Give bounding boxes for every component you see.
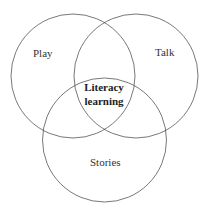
label-center-line1: Literacy xyxy=(84,81,124,93)
circle-play xyxy=(11,14,135,138)
label-stories: Stories xyxy=(90,156,121,168)
label-talk: Talk xyxy=(155,46,175,58)
label-center-line2: learning xyxy=(84,95,124,107)
label-play: Play xyxy=(33,47,53,59)
venn-diagram: Play Talk Stories Literacy learning xyxy=(0,0,204,212)
circle-talk xyxy=(74,14,198,138)
